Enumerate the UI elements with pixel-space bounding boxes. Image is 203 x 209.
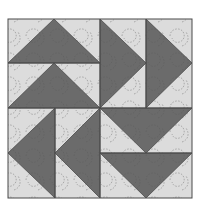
quilt-block — [0, 0, 203, 209]
